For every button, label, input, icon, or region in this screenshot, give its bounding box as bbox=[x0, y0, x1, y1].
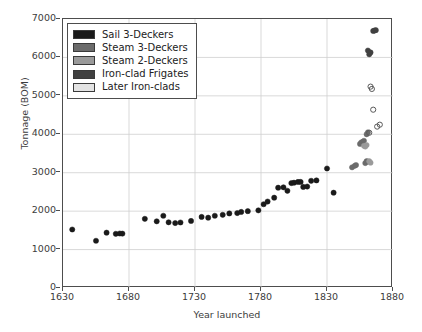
data-point bbox=[298, 179, 303, 184]
data-point bbox=[173, 220, 178, 225]
data-point bbox=[199, 214, 204, 219]
x-tick-label: 1880 bbox=[380, 292, 404, 302]
y-tick-label: 7000 bbox=[32, 13, 56, 23]
data-point bbox=[188, 218, 193, 223]
data-point bbox=[364, 142, 369, 147]
x-tick-label: 1630 bbox=[50, 292, 74, 302]
data-point bbox=[120, 231, 125, 236]
y-tick-label: 3000 bbox=[32, 167, 56, 177]
legend-item[interactable]: Sail 3-Deckers bbox=[73, 28, 189, 41]
legend-item[interactable]: Later Iron-clads bbox=[73, 81, 189, 94]
data-point bbox=[166, 220, 171, 225]
data-point bbox=[227, 211, 232, 216]
y-tick-label: 2000 bbox=[32, 205, 56, 215]
data-point bbox=[373, 28, 378, 33]
chart-figure: 01000200030004000500060007000 Tonnage (B… bbox=[0, 0, 422, 332]
x-tick-mark bbox=[62, 287, 63, 291]
data-point bbox=[104, 230, 109, 235]
data-point bbox=[368, 50, 373, 55]
y-tick-mark bbox=[56, 287, 60, 288]
x-tick-label: 1780 bbox=[248, 292, 272, 302]
data-point bbox=[314, 178, 319, 183]
data-point bbox=[93, 238, 98, 243]
legend-swatch-icon bbox=[73, 70, 95, 79]
legend-item-label: Iron-clad Frigates bbox=[102, 69, 189, 79]
x-tick-label: 1730 bbox=[182, 292, 206, 302]
data-point bbox=[285, 188, 290, 193]
x-tick-mark bbox=[392, 287, 393, 291]
y-tick-label: 4000 bbox=[32, 129, 56, 139]
data-point bbox=[178, 220, 183, 225]
legend-item-label: Steam 3-Deckers bbox=[102, 43, 188, 53]
x-tick-mark bbox=[194, 287, 195, 291]
chart-legend: Sail 3-DeckersSteam 3-DeckersSteam 2-Dec… bbox=[67, 23, 197, 99]
data-point bbox=[161, 213, 166, 218]
legend-swatch-icon bbox=[73, 30, 95, 39]
data-point bbox=[239, 209, 244, 214]
y-tick-label: 6000 bbox=[32, 52, 56, 62]
legend-swatch-icon bbox=[73, 83, 95, 92]
legend-item[interactable]: Iron-clad Frigates bbox=[73, 68, 189, 81]
x-tick-label: 1680 bbox=[116, 292, 140, 302]
legend-item-label: Later Iron-clads bbox=[102, 82, 180, 92]
legend-item-label: Sail 3-Deckers bbox=[102, 30, 173, 40]
data-point bbox=[256, 208, 261, 213]
x-tick-label: 1830 bbox=[314, 292, 338, 302]
data-point bbox=[265, 199, 270, 204]
data-point bbox=[142, 216, 147, 221]
data-point bbox=[371, 107, 376, 112]
y-axis-title: Tonnage (BOM) bbox=[19, 54, 30, 174]
y-tick-mark bbox=[56, 171, 60, 172]
y-tick-mark bbox=[56, 248, 60, 249]
data-point bbox=[324, 166, 329, 171]
y-tick-mark bbox=[56, 94, 60, 95]
y-tick-mark bbox=[56, 56, 60, 57]
data-point bbox=[309, 178, 314, 183]
data-point bbox=[272, 195, 277, 200]
legend-swatch-icon bbox=[73, 56, 95, 65]
legend-swatch-icon bbox=[73, 43, 95, 52]
x-tick-mark bbox=[128, 287, 129, 291]
legend-item[interactable]: Steam 2-Deckers bbox=[73, 54, 189, 67]
x-tick-mark bbox=[326, 287, 327, 291]
data-point bbox=[245, 209, 250, 214]
data-point bbox=[368, 160, 373, 165]
data-point bbox=[353, 162, 358, 167]
y-tick-label: 1000 bbox=[32, 244, 56, 254]
legend-item[interactable]: Steam 3-Deckers bbox=[73, 41, 189, 54]
data-point bbox=[70, 227, 75, 232]
x-axis-tick-labels: 163016801730178018301880 bbox=[62, 287, 392, 311]
legend-item-label: Steam 2-Deckers bbox=[102, 56, 188, 66]
data-point bbox=[212, 213, 217, 218]
y-tick-mark bbox=[56, 133, 60, 134]
y-tick-mark bbox=[56, 18, 60, 19]
y-tick-label: 5000 bbox=[32, 90, 56, 100]
data-point bbox=[154, 219, 159, 224]
data-point bbox=[220, 212, 225, 217]
data-point bbox=[305, 184, 310, 189]
data-point bbox=[206, 215, 211, 220]
data-point bbox=[331, 190, 336, 195]
x-axis-title: Year launched bbox=[62, 309, 392, 320]
data-point bbox=[276, 185, 281, 190]
x-tick-mark bbox=[260, 287, 261, 291]
y-tick-mark bbox=[56, 210, 60, 211]
